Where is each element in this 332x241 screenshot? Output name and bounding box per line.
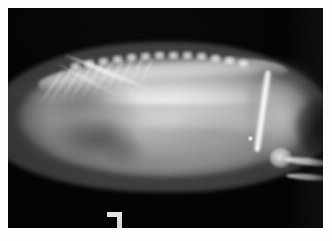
screenshot-root <box>0 0 332 241</box>
radiographic-positioning-marker <box>107 212 122 228</box>
vertebra-body <box>210 54 221 63</box>
vertebra-body <box>168 51 179 60</box>
radiograph-plate <box>8 8 323 228</box>
vertebra-body <box>182 51 193 60</box>
vertebra-body <box>196 52 207 61</box>
organ-shadow-right <box>178 112 248 156</box>
vertebra-body <box>224 56 235 65</box>
vertebra-body <box>154 51 165 60</box>
focal-opacity-dot <box>248 136 253 141</box>
vertebra-body <box>238 59 249 68</box>
marker-vertical-bar <box>117 212 122 228</box>
